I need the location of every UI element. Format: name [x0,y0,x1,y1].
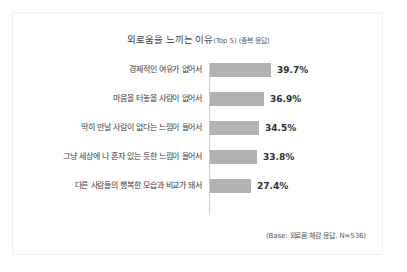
bar-category-label: 그냥 세상에 나 혼자 있는 듯한 느낌이 들어서 [63,150,202,164]
chart-footnote: (Base: 외로움 체감 응답, N=536) [266,230,366,240]
bar-category-label: 다른 사람들의 행복한 모습과 비교가 돼서 [75,179,202,193]
bar-value-label: 36.9% [270,92,301,106]
bar-fill [210,121,259,135]
bar-category-label: 마음을 터놓을 사람이 없어서 [113,92,202,106]
chart-title-main: 외로움을 느끼는 이유 [127,34,213,45]
bar-value-label: 33.8% [263,150,294,164]
bar-value-label: 39.7% [277,63,308,77]
bar-fill [210,92,264,106]
chart-title: 외로움을 느끼는 이유(Top 5) (중복 응답) [13,32,384,46]
chart-title-suffix: (Top 5) (중복 응답) [213,37,269,45]
bar-track [210,150,257,164]
bar-row: 그냥 세상에 나 혼자 있는 듯한 느낌이 들어서 33.8% [13,150,384,164]
bar-track [210,63,271,77]
bar-category-label: 딱히 만날 사람이 없다는 느낌이 들어서 [81,121,202,135]
bar-track [210,92,264,106]
bar-fill [210,150,257,164]
bar-row: 경제적인 여유가 없어서 39.7% [13,63,384,77]
bar-value-label: 27.4% [257,179,288,193]
bar-row: 딱히 만날 사람이 없다는 느낌이 들어서 34.5% [13,121,384,135]
bar-value-label: 34.5% [265,121,296,135]
chart-card: 외로움을 느끼는 이유(Top 5) (중복 응답) 경제적인 여유가 없어서 … [12,12,383,255]
bar-fill [210,63,271,77]
bar-track [210,179,251,193]
bar-row: 다른 사람들의 행복한 모습과 비교가 돼서 27.4% [13,179,384,193]
bar-fill [210,179,251,193]
plot-area: 경제적인 여유가 없어서 39.7% 마음을 터놓을 사람이 없어서 36.9%… [13,57,384,215]
bar-track [210,121,259,135]
bar-row: 마음을 터놓을 사람이 없어서 36.9% [13,92,384,106]
bar-category-label: 경제적인 여유가 없어서 [129,63,202,77]
